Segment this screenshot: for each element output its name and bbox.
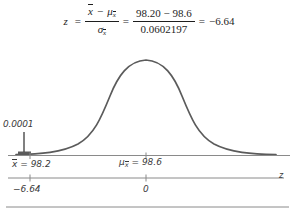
- z-axis-name-label: z: [279, 171, 283, 180]
- formula-equals-2: =: [119, 15, 133, 27]
- sample-mean-label-eq: =: [20, 159, 28, 169]
- sample-mean-label: x = 98.2: [12, 159, 51, 169]
- formula-equals-1: =: [71, 15, 85, 27]
- normal-curve: [16, 60, 276, 155]
- formula-z-symbol: z: [61, 15, 71, 27]
- population-mean-value: 98.6: [142, 157, 162, 167]
- formula-symbolic-fraction: x−μx σx: [85, 5, 119, 38]
- z-tick-label-center: 0: [143, 184, 149, 194]
- formula-numeric-numerator: 98.20 − 98.6: [133, 7, 195, 21]
- normal-distribution-figure: z = x−μx σx = 98.20 − 98.6 0.0602197 = −…: [0, 0, 295, 217]
- population-mean-eq: =: [131, 157, 139, 167]
- formula-numeric-denominator: 0.0602197: [133, 22, 195, 35]
- population-mean-label: μx = 98.6: [119, 157, 162, 169]
- tail-area-label: 0.0001: [3, 119, 33, 129]
- z-score-formula: z = x−μx σx = 98.20 − 98.6 0.0602197 = −…: [0, 4, 295, 38]
- formula-symbolic-numerator: x−μx: [85, 5, 119, 22]
- sample-mean-label-value: 98.2: [31, 159, 51, 169]
- formula-numeric-fraction: 98.20 − 98.6 0.0602197: [133, 7, 195, 35]
- formula-equals-3: =: [195, 15, 209, 27]
- formula-symbolic-denominator: σx: [85, 22, 119, 38]
- z-tick-label-left: −6.64: [13, 184, 41, 194]
- formula-result: −6.64: [209, 15, 234, 27]
